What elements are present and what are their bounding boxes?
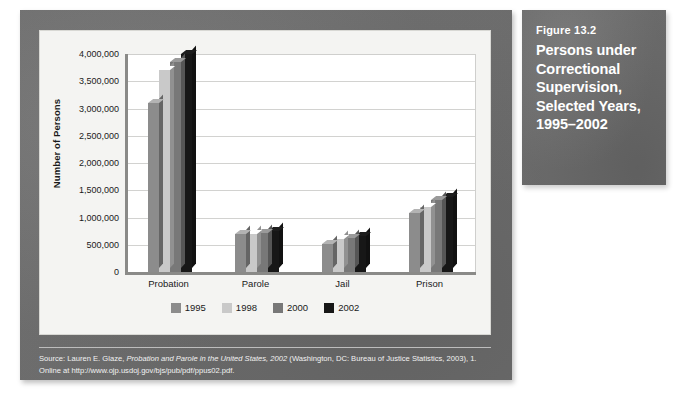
- figure-title: Persons under Correctional Supervision, …: [536, 41, 658, 134]
- y-tick-label: 4,000,000: [57, 49, 119, 59]
- y-tick-label: 1,500,000: [57, 185, 119, 195]
- legend-item-1995: 1995: [171, 302, 206, 313]
- figure-panel: Number of Persons 4,000,0003,500,0003,00…: [20, 10, 512, 380]
- legend-swatch-icon: [171, 303, 181, 313]
- figure-page: Number of Persons 4,000,0003,500,0003,00…: [0, 0, 680, 399]
- bar-jail-1995: [322, 244, 333, 272]
- bar-side: [192, 46, 196, 268]
- y-tick-label: 2,500,000: [57, 131, 119, 141]
- legend-swatch-icon: [324, 303, 334, 313]
- bar-group: [148, 54, 192, 272]
- chart-legend: 1995199820002002: [39, 302, 491, 313]
- x-label-jail: Jail: [335, 278, 349, 289]
- caption-box: Figure 13.2 Persons under Correctional S…: [522, 10, 666, 185]
- legend-item-1998: 1998: [222, 302, 257, 313]
- x-label-prison: Prison: [416, 278, 443, 289]
- legend-swatch-icon: [273, 303, 283, 313]
- bar-side: [170, 62, 174, 268]
- bar-prison-1995: [409, 213, 420, 272]
- figure-number-label: Figure 13.2: [536, 24, 596, 36]
- bar-face: [148, 103, 159, 272]
- plot-area: [125, 54, 476, 275]
- y-tick-label: 0: [57, 267, 119, 277]
- y-tick-label: 2,000,000: [57, 158, 119, 168]
- legend-label: 1995: [185, 302, 206, 313]
- bar-side: [159, 95, 163, 268]
- y-tick-label: 500,000: [57, 240, 119, 250]
- bar-side: [181, 54, 185, 268]
- bar-face: [322, 244, 333, 272]
- bar-side: [453, 189, 457, 268]
- bar-side: [431, 198, 435, 268]
- bar-face: [235, 234, 246, 272]
- chart-card: Number of Persons 4,000,0003,500,0003,00…: [39, 30, 491, 335]
- source-note-line-1: Source: Lauren E. Glaze, Probation and P…: [39, 353, 491, 365]
- bar-probation-1995: [148, 103, 159, 272]
- source-note-suffix: (Washington, DC: Bureau of Justice Stati…: [287, 354, 476, 363]
- bar-parole-1995: [235, 234, 246, 272]
- bar-side: [420, 205, 424, 268]
- legend-label: 1998: [236, 302, 257, 313]
- legend-swatch-icon: [222, 303, 232, 313]
- legend-item-2002: 2002: [324, 302, 359, 313]
- legend-label: 2002: [338, 302, 359, 313]
- source-note-italic-title: Probation and Parole in the United State…: [126, 354, 287, 363]
- y-tick-label: 3,500,000: [57, 76, 119, 86]
- bar-group: [235, 54, 279, 272]
- source-note-line-2: Online at http://www.ojp.usdoj.gov/bjs/p…: [39, 365, 491, 377]
- y-tick-label: 1,000,000: [57, 213, 119, 223]
- source-note-prefix: Source: Lauren E. Glaze,: [39, 354, 126, 363]
- legend-item-2000: 2000: [273, 302, 308, 313]
- bar-side: [442, 192, 446, 268]
- y-axis-tick-labels: 4,000,0003,500,0003,000,0002,500,0002,00…: [57, 30, 119, 288]
- x-label-parole: Parole: [242, 278, 269, 289]
- plot-wrapper: Number of Persons 4,000,0003,500,0003,00…: [39, 30, 491, 288]
- x-label-probation: Probation: [148, 278, 189, 289]
- bar-group: [409, 54, 453, 272]
- source-note: Source: Lauren E. Glaze, Probation and P…: [39, 347, 491, 377]
- bar-face: [409, 213, 420, 272]
- legend-label: 2000: [287, 302, 308, 313]
- x-axis-category-labels: ProbationParoleJailPrison: [125, 278, 476, 296]
- y-tick-label: 3,000,000: [57, 104, 119, 114]
- bar-group: [322, 54, 366, 272]
